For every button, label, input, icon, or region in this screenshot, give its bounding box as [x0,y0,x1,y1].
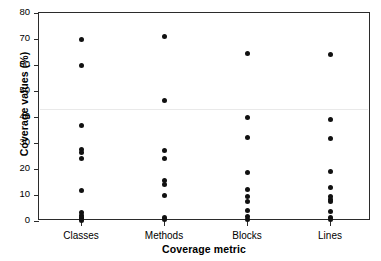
data-point [245,208,250,213]
y-tick-label: 20 [0,162,30,173]
data-point [328,117,333,122]
y-tick-label: 0 [0,214,30,225]
data-point [79,150,84,155]
data-point [162,34,167,39]
data-point [162,156,167,161]
data-point [79,188,84,193]
y-tick-label: 60 [0,58,30,69]
y-axis-title: Coverage values (%) [18,24,30,184]
data-point [79,123,84,128]
y-tick-mark [34,117,39,118]
y-tick-label: 80 [0,6,30,17]
y-tick-mark [34,169,39,170]
x-tick-label: Methods [120,230,208,241]
data-point [79,63,84,68]
background-guide-line [40,109,368,110]
y-tick-mark [34,65,39,66]
data-point [328,209,333,214]
y-tick-mark [34,195,39,196]
data-point [245,199,250,204]
x-tick-label: Classes [37,230,125,241]
data-point [162,217,167,222]
y-tick-mark [34,143,39,144]
y-tick-label: 30 [0,136,30,147]
y-tick-mark [34,91,39,92]
data-point [328,136,333,141]
data-point [328,199,333,204]
data-point [79,37,84,42]
y-tick-mark [34,13,39,14]
y-tick-mark [34,39,39,40]
data-point [328,169,333,174]
data-point [328,52,333,57]
data-point [79,156,84,161]
data-point [162,193,167,198]
y-tick-label: 10 [0,188,30,199]
x-tick-label: Lines [286,230,374,241]
x-axis-title: Coverage metric [38,243,370,255]
data-point [162,98,167,103]
y-tick-mark [34,221,39,222]
data-point [328,217,333,222]
data-point [245,135,250,140]
y-tick-label: 70 [0,32,30,43]
data-point [162,148,167,153]
x-tick-label: Blocks [203,230,291,241]
data-point [245,51,250,56]
plot-area: 01020304050607080 ClassesMethodsBlocksLi… [38,12,370,220]
data-point [245,217,250,222]
data-point [328,185,333,190]
data-point [162,182,167,187]
data-point [245,170,250,175]
data-point [245,115,250,120]
data-point [79,218,84,223]
scatter-chart-figure: Coverage values (%) 01020304050607080 Cl… [0,0,381,261]
y-tick-label: 50 [0,84,30,95]
data-point [245,187,250,192]
y-tick-label: 40 [0,110,30,121]
